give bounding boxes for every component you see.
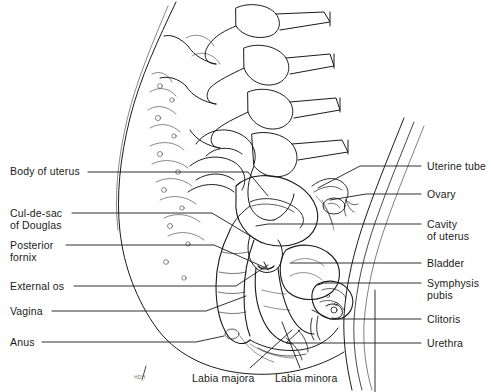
label-urethra: Urethra — [427, 337, 463, 349]
label-cavity-of-uterus: Cavity of uterus — [427, 218, 469, 243]
label-cul-de-sac-of-douglas: Cul-de-sac of Douglas — [10, 207, 62, 232]
symphysis-pubis — [312, 281, 353, 319]
lumbar-vertebrae — [160, 5, 348, 230]
label-line: Cavity — [427, 218, 469, 230]
vagina — [255, 268, 314, 344]
label-line: Labia majora — [192, 372, 255, 384]
bladder — [280, 245, 339, 299]
uterine-tube-and-ovary — [312, 179, 358, 230]
label-line: Ovary — [427, 188, 456, 200]
label-line: Symphysis — [427, 277, 479, 289]
label-line: of uterus — [427, 230, 469, 242]
label-line: Bladder — [427, 257, 464, 269]
leader-external-os — [74, 265, 268, 286]
label-anus: Anus — [10, 336, 35, 348]
label-line: Posterior — [10, 239, 53, 251]
anatomy-illustration — [0, 0, 491, 392]
label-symphysis-pubis: Symphysis pubis — [427, 277, 479, 302]
label-line: of Douglas — [10, 219, 62, 231]
pelvic-floor-muscle — [240, 336, 294, 362]
label-line: fornix — [10, 251, 53, 263]
label-line: Uterine tube — [427, 160, 486, 172]
label-labia-minora: Labia minora — [275, 372, 338, 384]
label-line: Labia minora — [275, 372, 338, 384]
posterior-body-contour — [344, 118, 424, 390]
label-line: Clitoris — [427, 313, 460, 325]
label-posterior-fornix: Posterior fornix — [10, 239, 53, 264]
leader-ovary — [330, 194, 421, 200]
leader-uterine-tube — [318, 166, 421, 188]
leader-clitoris — [312, 310, 421, 319]
label-line: Anus — [10, 336, 35, 348]
label-line: Vagina — [10, 305, 43, 317]
label-labia-majora: Labia majora — [192, 372, 255, 384]
artist-signature: HDH — [134, 374, 145, 380]
label-line: Urethra — [427, 337, 463, 349]
label-bladder: Bladder — [427, 257, 464, 269]
label-vagina: Vagina — [10, 305, 43, 317]
leader-cul-de-sac — [72, 213, 262, 243]
label-line: External os — [10, 280, 64, 292]
leader-cavity-of-uterus — [256, 224, 421, 226]
label-line: Cul-de-sac — [10, 207, 62, 219]
label-ovary: Ovary — [427, 188, 456, 200]
label-body-of-uterus: Body of uterus — [10, 165, 80, 177]
label-uterine-tube: Uterine tube — [427, 160, 486, 172]
label-line: Body of uterus — [10, 165, 80, 177]
label-external-os: External os — [10, 280, 64, 292]
leader-labia-majora — [250, 330, 292, 368]
label-clitoris: Clitoris — [427, 313, 460, 325]
label-line: pubis — [427, 289, 479, 301]
leader-labia-minora — [282, 322, 300, 368]
leader-anus — [42, 336, 224, 342]
leader-body-of-uterus — [88, 172, 268, 196]
abdominal-wall-contour — [116, 2, 344, 374]
anatomical-figure: Body of uterus Cul-de-sac of Douglas Pos… — [0, 0, 491, 392]
